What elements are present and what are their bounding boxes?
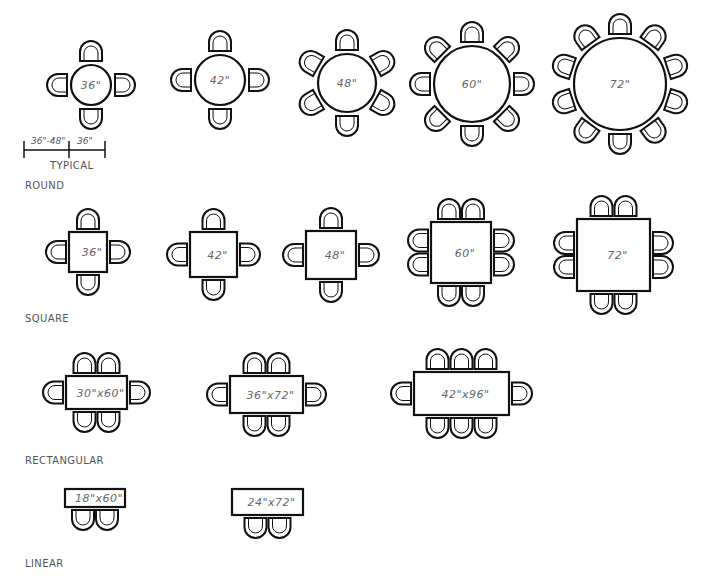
chair xyxy=(130,382,150,404)
table-square-72: 72" xyxy=(554,196,673,314)
table-size-label: 18"x60" xyxy=(75,492,123,505)
chair xyxy=(77,275,99,295)
chair xyxy=(438,199,460,219)
chair xyxy=(96,510,118,530)
chair xyxy=(408,230,428,252)
table-size-label: 24"x72" xyxy=(247,496,295,509)
table-square-48: 48" xyxy=(283,208,379,302)
chair xyxy=(615,196,637,216)
chair xyxy=(609,134,631,154)
tables-layer: 36"42"48"60"72"36"42"48"60"72"30"x60"36"… xyxy=(43,14,690,538)
chair xyxy=(80,109,102,129)
table-size-label: 72" xyxy=(607,249,628,262)
table-round-60: 60" xyxy=(410,22,534,146)
table-size-label: 42" xyxy=(207,249,228,262)
chair xyxy=(554,232,574,254)
chair xyxy=(410,73,430,95)
chair xyxy=(462,286,484,306)
table-round-42: 42" xyxy=(171,31,269,129)
chair xyxy=(77,209,99,229)
table-round-48: 48" xyxy=(296,30,399,136)
chair xyxy=(244,416,266,436)
chair xyxy=(336,30,358,50)
chair xyxy=(427,418,449,438)
chair xyxy=(80,41,102,61)
table-linear-18x60: 18"x60" xyxy=(65,489,125,530)
table-square-60: 60" xyxy=(408,199,514,306)
table-size-label: 36" xyxy=(82,246,103,259)
chair xyxy=(171,69,191,91)
chair xyxy=(359,244,379,266)
chair xyxy=(512,383,532,405)
clearance-dimension-label: 36"-48" xyxy=(31,136,65,146)
chair xyxy=(609,14,631,34)
chair xyxy=(591,294,613,314)
table-size-label: 60" xyxy=(462,78,483,91)
table-rect-42x96: 42"x96" xyxy=(391,349,532,438)
chair xyxy=(47,74,67,96)
chair xyxy=(550,52,576,79)
chair xyxy=(391,383,411,405)
chair xyxy=(475,418,497,438)
table-size-label: 36"x72" xyxy=(246,389,294,402)
chair xyxy=(268,353,290,373)
chair xyxy=(475,349,497,369)
chair xyxy=(110,241,130,263)
table-rect-30x60: 30"x60" xyxy=(43,353,150,432)
chair xyxy=(554,256,574,278)
table-square-36: 36" xyxy=(46,209,130,295)
table-rect-36x72: 36"x72" xyxy=(207,353,326,436)
table-size-label: 42" xyxy=(210,74,231,87)
chair xyxy=(115,74,135,96)
typical-note: TYPICAL xyxy=(50,160,93,171)
chair xyxy=(550,89,576,116)
chair-zone-dimension-label: 36" xyxy=(77,136,93,146)
chair xyxy=(74,353,96,373)
table-size-label: 42"x96" xyxy=(441,388,489,401)
chair xyxy=(240,244,260,266)
category-label-square: SQUARE xyxy=(25,313,69,324)
chair xyxy=(98,412,120,432)
chair xyxy=(461,22,483,42)
chair xyxy=(438,286,460,306)
chair xyxy=(591,196,613,216)
category-label-rectangular: RECTANGULAR xyxy=(25,455,104,466)
chair xyxy=(494,254,514,276)
table-size-label: 60" xyxy=(455,247,476,260)
chair xyxy=(283,244,303,266)
table-size-label: 72" xyxy=(610,78,631,91)
chair xyxy=(167,244,187,266)
chair xyxy=(664,89,690,116)
category-label-round: ROUND xyxy=(25,180,64,191)
chair xyxy=(268,416,290,436)
chair xyxy=(653,232,673,254)
table-linear-24x72: 24"x72" xyxy=(232,489,303,538)
table-square-42: 42" xyxy=(167,209,260,300)
chair xyxy=(451,418,473,438)
chair xyxy=(72,510,94,530)
table-layout-diagram: 36"42"48"60"72"36"42"48"60"72"30"x60"36"… xyxy=(0,0,707,584)
chair xyxy=(209,31,231,51)
chair xyxy=(98,353,120,373)
chair xyxy=(320,282,342,302)
chair xyxy=(615,294,637,314)
chair xyxy=(244,353,266,373)
chair xyxy=(203,209,225,229)
chair xyxy=(306,384,326,406)
chair xyxy=(203,280,225,300)
table-size-label: 36" xyxy=(81,79,102,92)
chair xyxy=(451,349,473,369)
chair xyxy=(427,349,449,369)
chair xyxy=(336,116,358,136)
chair xyxy=(269,518,291,538)
chair xyxy=(46,241,66,263)
chair xyxy=(207,384,227,406)
chair xyxy=(320,208,342,228)
category-label-linear: LINEAR xyxy=(25,558,64,569)
chair xyxy=(74,412,96,432)
chair xyxy=(514,73,534,95)
chair xyxy=(653,256,673,278)
chair xyxy=(461,126,483,146)
chair xyxy=(494,230,514,252)
chair xyxy=(209,109,231,129)
